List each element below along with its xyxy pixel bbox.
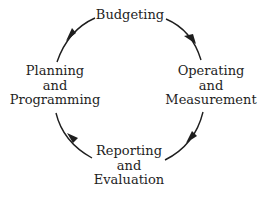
node-label: Programming xyxy=(10,93,101,108)
node-label: Operating xyxy=(165,64,256,79)
node-label: Measurement xyxy=(165,93,256,108)
arrow-planning-to-budgeting xyxy=(57,18,95,62)
node-label: and xyxy=(94,159,164,174)
arrowhead-icon xyxy=(66,28,76,41)
node-budgeting: Budgeting xyxy=(96,8,164,23)
node-label: Planning xyxy=(10,64,101,79)
node-operating-and-measurement: Operating and Measurement xyxy=(165,64,256,108)
node-label: Budgeting xyxy=(96,8,164,23)
node-label: Reporting xyxy=(94,144,164,159)
arrow-reporting-to-planning xyxy=(56,113,92,158)
node-label: and xyxy=(165,79,256,94)
node-reporting-and-evaluation: Reporting and Evaluation xyxy=(94,144,164,188)
arrow-budgeting-to-operating xyxy=(166,19,201,60)
arrow-operating-to-reporting xyxy=(165,112,203,160)
node-label: Evaluation xyxy=(94,173,164,188)
arrowhead-icon xyxy=(184,34,196,44)
node-label: and xyxy=(10,79,101,94)
node-planning-and-programming: Planning and Programming xyxy=(10,64,101,108)
cycle-diagram: Budgeting Operating and Measurement Repo… xyxy=(0,0,260,199)
